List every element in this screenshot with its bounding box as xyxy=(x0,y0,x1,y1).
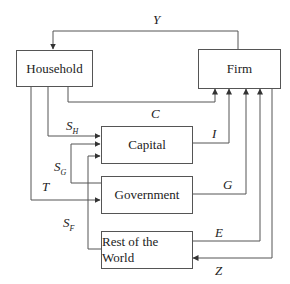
government-label: Government xyxy=(115,187,180,203)
flow-z-label: Z xyxy=(215,264,222,277)
firm-node: Firm xyxy=(198,49,281,89)
flow-y-label: Y xyxy=(153,13,160,26)
flow-sg-line xyxy=(71,144,101,183)
flow-e-label: E xyxy=(215,226,223,239)
flow-g-label: G xyxy=(223,178,232,191)
rest-of-world-node: Rest of the World xyxy=(101,231,193,269)
flow-sf-label: SF xyxy=(63,216,74,233)
flow-sf-line xyxy=(88,156,101,249)
capital-label: Capital xyxy=(128,137,166,153)
government-node: Government xyxy=(101,176,193,214)
household-label: Household xyxy=(26,61,82,77)
flow-g-line xyxy=(192,89,246,194)
flow-sh-label: SH xyxy=(66,119,78,136)
capital-node: Capital xyxy=(101,126,193,164)
flow-i-line xyxy=(192,89,229,143)
flow-i-label: I xyxy=(212,127,216,140)
flow-sg-label: SG xyxy=(54,160,66,177)
rest-of-world-label: Rest of the World xyxy=(102,234,192,266)
flow-c-line xyxy=(68,86,215,102)
firm-label: Firm xyxy=(227,61,252,77)
flow-y-line xyxy=(53,31,238,49)
flow-c-label: C xyxy=(151,107,160,120)
household-node: Household xyxy=(16,50,93,87)
flow-e-line xyxy=(192,89,260,241)
flow-t-label: T xyxy=(42,180,49,193)
